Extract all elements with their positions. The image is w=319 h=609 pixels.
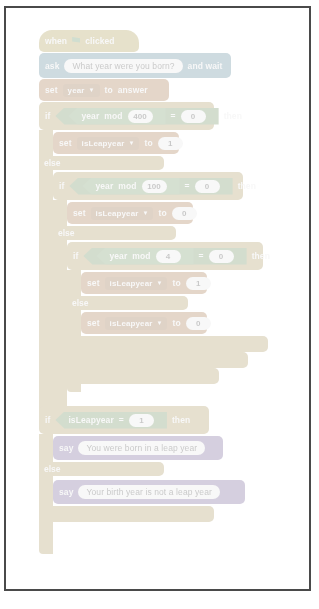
to-label: to xyxy=(144,138,152,148)
if3-keyword: if xyxy=(73,251,78,261)
say-text-input[interactable]: Your birth year is not a leap year xyxy=(78,485,219,499)
block-ask-and-wait[interactable]: ask What year were you born? and wait xyxy=(39,53,231,78)
chevron-down-icon: ▼ xyxy=(88,87,94,93)
ask-question-input[interactable]: What year were you born? xyxy=(64,59,182,73)
if1-else-bar[interactable]: else xyxy=(39,156,164,170)
if3-else-label: else xyxy=(72,298,89,308)
if3-left-variable[interactable]: year xyxy=(109,251,127,261)
if1-then-label: then xyxy=(224,111,242,121)
variable-name: isLeapyear xyxy=(110,279,153,288)
if3-compare-to[interactable]: 0 xyxy=(209,250,234,263)
to-label: to xyxy=(158,208,166,218)
if4-else-label: else xyxy=(44,464,61,474)
if4-compare-to[interactable]: 1 xyxy=(129,414,154,427)
if3-then-label: then xyxy=(252,251,270,261)
block-set-isleapyear-0b[interactable]: set isLeapyear ▼ to 0 xyxy=(81,312,207,334)
chevron-down-icon: ▼ xyxy=(156,320,162,326)
if1-right-value[interactable]: 400 xyxy=(128,110,153,123)
if1-condition-equals[interactable]: year mod 400 = 0 xyxy=(55,108,218,125)
answer-reporter[interactable]: answer xyxy=(118,85,148,95)
chevron-down-icon: ▼ xyxy=(156,280,162,286)
if3-right-value[interactable]: 4 xyxy=(156,250,181,263)
if2-else-bar[interactable]: else xyxy=(53,226,176,240)
to-label: to xyxy=(172,318,180,328)
block-if-2[interactable]: if year mod 100 = 0 then xyxy=(53,172,243,200)
if1-keyword: if xyxy=(45,111,50,121)
if1-mod-operator[interactable]: year mod 400 xyxy=(68,108,165,125)
variable-dropdown-year[interactable]: year ▼ xyxy=(63,84,100,97)
block-set-year[interactable]: set year ▼ to answer xyxy=(39,79,169,101)
if2-keyword: if xyxy=(59,181,64,191)
if2-comparator: = xyxy=(185,181,190,191)
if3-condition-equals[interactable]: year mod 4 = 0 xyxy=(83,248,246,265)
if3-mod-operator[interactable]: year mod 4 xyxy=(96,248,193,265)
set-label: set xyxy=(87,278,100,288)
block-set-isleapyear-0a[interactable]: set isLeapyear ▼ to 0 xyxy=(67,202,193,224)
block-say-leap-year-true[interactable]: say You were born in a leap year xyxy=(53,436,223,460)
block-set-isleapyear-1a[interactable]: set isLeapyear ▼ to 1 xyxy=(53,132,179,154)
if4-keyword: if xyxy=(45,415,50,425)
if3-else-bar[interactable]: else xyxy=(67,296,188,310)
set-value-input[interactable]: 1 xyxy=(158,137,183,150)
scratch-script-canvas: when clicked ask What year were you born… xyxy=(33,30,285,575)
block-say-leap-year-false[interactable]: say Your birth year is not a leap year xyxy=(53,480,245,504)
chevron-down-icon: ▼ xyxy=(128,140,134,146)
variable-name: isLeapyear xyxy=(96,209,139,218)
if2-left-variable[interactable]: year xyxy=(95,181,113,191)
set-label: set xyxy=(59,138,72,148)
variable-dropdown-isleapyear[interactable]: isLeapyear ▼ xyxy=(105,277,168,290)
if2-compare-to[interactable]: 0 xyxy=(195,180,220,193)
if1-comparator: = xyxy=(171,111,176,121)
scanned-page-frame: when clicked ask What year were you born… xyxy=(4,6,311,591)
block-when-flag-clicked[interactable]: when clicked xyxy=(39,30,139,52)
if3-end-bar xyxy=(67,336,268,352)
if3-mod-label: mod xyxy=(132,251,150,261)
block-if-3[interactable]: if year mod 4 = 0 then xyxy=(67,242,263,270)
ask-label: ask xyxy=(45,61,59,71)
if4-end-bar xyxy=(39,506,214,522)
if2-mod-operator[interactable]: year mod 100 xyxy=(82,178,179,195)
if2-then-label: then xyxy=(238,181,256,191)
variable-name: isLeapyear xyxy=(82,139,125,148)
variable-dropdown-isleapyear[interactable]: isLeapyear ▼ xyxy=(91,207,154,220)
if3-comparator: = xyxy=(199,251,204,261)
if2-condition-equals[interactable]: year mod 100 = 0 xyxy=(69,178,232,195)
if1-left-spine xyxy=(39,130,53,430)
block-if-4[interactable]: if isLeapyear = 1 then xyxy=(39,406,209,434)
set-label: set xyxy=(73,208,86,218)
say-text-input[interactable]: You were born in a leap year xyxy=(78,441,205,455)
variable-dropdown-isleapyear[interactable]: isLeapyear ▼ xyxy=(105,317,168,330)
if4-left-variable[interactable]: isLeapyear xyxy=(68,415,113,425)
if1-else-label: else xyxy=(44,158,61,168)
variable-name: isLeapyear xyxy=(110,319,153,328)
set-value-input[interactable]: 1 xyxy=(186,277,211,290)
say-label: say xyxy=(59,487,73,497)
if2-else-label: else xyxy=(58,228,75,238)
if4-then-label: then xyxy=(172,415,190,425)
set-value-input[interactable]: 0 xyxy=(172,207,197,220)
to-label: to xyxy=(172,278,180,288)
when-label: when xyxy=(45,36,67,46)
if4-else-bar[interactable]: else xyxy=(39,462,164,476)
if1-left-variable[interactable]: year xyxy=(81,111,99,121)
chevron-down-icon: ▼ xyxy=(142,210,148,216)
clicked-label: clicked xyxy=(85,36,115,46)
to-label: to xyxy=(105,85,113,95)
variable-dropdown-isleapyear[interactable]: isLeapyear ▼ xyxy=(77,137,140,150)
if2-mod-label: mod xyxy=(118,181,136,191)
if1-end-bar xyxy=(39,368,219,384)
if4-condition-equals[interactable]: isLeapyear = 1 xyxy=(55,412,167,429)
if2-right-value[interactable]: 100 xyxy=(142,180,167,193)
if1-mod-label: mod xyxy=(104,111,122,121)
and-wait-label: and wait xyxy=(188,61,223,71)
set-value-input[interactable]: 0 xyxy=(186,317,211,330)
if1-compare-to[interactable]: 0 xyxy=(181,110,206,123)
if4-left-spine xyxy=(39,434,53,554)
set-label: set xyxy=(87,318,100,328)
block-if-1[interactable]: if year mod 400 = 0 then xyxy=(39,102,214,130)
block-set-isleapyear-1b[interactable]: set isLeapyear ▼ to 1 xyxy=(81,272,207,294)
say-label: say xyxy=(59,443,73,453)
if4-comparator: = xyxy=(119,415,124,425)
green-flag-icon xyxy=(72,37,80,45)
variable-name: year xyxy=(68,86,85,95)
